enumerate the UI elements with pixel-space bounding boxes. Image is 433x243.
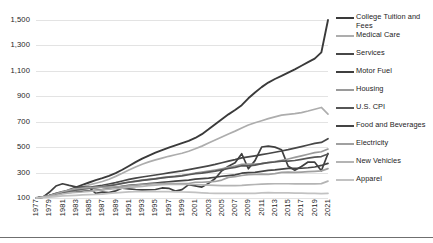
x-axis-label: 2017 [297,199,305,216]
legend-swatch-icon [336,107,354,109]
x-axis-label: 1985 [85,199,93,216]
x-axis-label: 1979 [45,199,53,216]
legend-item[interactable]: Apparel [336,174,433,183]
x-axis-label: 2011 [258,199,266,216]
x-axis-label: 1997 [165,199,173,216]
bottom-divider [0,237,433,238]
legend-item[interactable]: College Tuition and Fees [336,12,433,30]
legend-swatch-icon [336,89,354,91]
x-axis-label: 2015 [284,199,292,216]
legend-swatch-icon [336,161,354,163]
legend-swatch-icon [336,17,354,19]
y-axis-label: 1,500 [0,16,30,24]
legend-label: Electricity [356,138,388,147]
x-axis-label: 1981 [59,199,67,216]
legend-swatch-icon [336,125,354,127]
legend-label: U.S. CPI [356,102,385,111]
x-axis-label: 1983 [72,199,80,216]
legend-item[interactable]: New Vehicles [336,156,433,165]
legend-swatch-icon [336,179,354,181]
x-axis-label: 2019 [311,199,319,216]
legend-item[interactable]: U.S. CPI [336,102,433,111]
x-axis-label: 1995 [151,199,159,216]
x-axis-label: 2009 [244,199,252,216]
legend-label: Motor Fuel [356,66,392,75]
y-axis-label: 1,100 [0,67,30,75]
y-axis-label: 700 [0,118,30,126]
legend-label: College Tuition and Fees [356,12,433,30]
x-axis-label: 2007 [231,199,239,216]
x-axis-label: 2005 [218,199,226,216]
legend-swatch-icon [336,35,354,37]
x-axis-label: 2001 [191,199,199,216]
plot-area [36,20,328,198]
y-axis-label: 300 [0,169,30,177]
x-axis-label: 2003 [205,199,213,216]
y-axis-label: 1,300 [0,41,30,49]
x-axis-ticks: 1977197919811983198519871989199119931995… [36,199,328,231]
x-axis-label: 1991 [125,199,133,216]
x-axis-label: 1993 [138,199,146,216]
legend-label: Apparel [356,174,382,183]
legend-label: New Vehicles [356,156,401,165]
x-axis-label: 2013 [271,199,279,216]
legend-label: Medical Care [356,30,400,39]
y-axis-label: 500 [0,143,30,151]
x-axis-label: 1989 [112,199,120,216]
legend-swatch-icon [336,53,354,55]
legend-label: Housing [356,84,383,93]
x-axis-label: 1977 [32,199,40,216]
legend-item[interactable]: Services [336,48,433,57]
x-axis-label: 1987 [98,199,106,216]
legend-label: Food and Beverages [356,120,426,129]
legend-item[interactable]: Food and Beverages [336,120,433,129]
x-axis-label: 2021 [324,199,332,216]
line-chart: 1003005007009001,1001,3001,500 197719791… [0,0,433,243]
legend-label: Services [356,48,385,57]
y-axis-label: 900 [0,92,30,100]
series-lines [36,20,328,198]
y-axis-label: 100 [0,194,30,202]
legend-item[interactable]: Housing [336,84,433,93]
legend-item[interactable]: Motor Fuel [336,66,433,75]
legend-swatch-icon [336,71,354,73]
legend-item[interactable]: Electricity [336,138,433,147]
x-axis-label: 1999 [178,199,186,216]
legend-item[interactable]: Medical Care [336,30,433,39]
legend-swatch-icon [336,143,354,145]
